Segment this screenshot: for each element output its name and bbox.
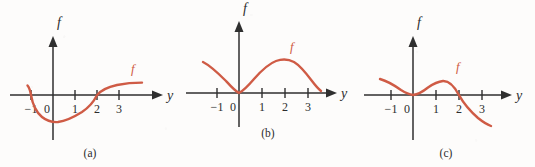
tick-label-3-a: 3 [116,102,122,116]
tick-label-1-b: 1 [259,100,265,114]
tick-label-neg1-b: −1 [211,100,224,114]
tick-label-0-b: 0 [230,100,236,114]
panel-c: −1 0 1 2 3 f y f (c) [356,0,535,167]
figure-three-graph-panels: −1 0 1 2 3 f y f (a) [0,0,535,167]
tick-label-0-a: 0 [44,102,50,116]
tick-label-2-c: 2 [456,102,462,116]
panel-caption-a: (a) [0,147,180,159]
panel-caption-c: (c) [356,147,535,159]
tick-label-neg1-c: −1 [385,102,398,116]
panel-b: −1 0 1 2 3 f y f (b) [178,0,358,167]
y-axis-label-a: f [57,15,63,30]
curve-label-b: f [290,39,296,54]
curve-label-a: f [131,61,137,76]
panel-a: −1 0 1 2 3 f y f (a) [0,0,180,167]
x-axis-label-b: y [339,86,348,101]
tick-label-3-c: 3 [479,102,485,116]
tick-label-3-b: 3 [305,100,311,114]
graph-c: −1 0 1 2 3 f y f [356,0,535,167]
curve-label-c: f [456,59,462,74]
y-axis-arrowhead-b [235,21,244,32]
y-axis-arrowhead-a [49,36,58,47]
graph-a: −1 0 1 2 3 f y f [0,0,180,167]
graph-b: −1 0 1 2 3 f y f [178,0,358,167]
x-axis-label-a: y [165,88,174,103]
tick-label-1-c: 1 [433,102,439,116]
y-axis-label-b: f [243,1,249,16]
tick-label-2-a: 2 [94,102,100,116]
y-axis-arrowhead-c [409,36,418,47]
x-axis-arrowhead-b [326,89,337,98]
x-axis-arrowhead-c [501,91,512,100]
x-axis-arrowhead-a [152,91,163,100]
tick-label-0-c: 0 [404,102,410,116]
panel-caption-b: (b) [178,127,358,139]
curve-b [203,59,321,93]
x-axis-label-c: y [514,88,523,103]
tick-label-2-b: 2 [282,100,288,114]
y-axis-label-c: f [417,15,423,30]
